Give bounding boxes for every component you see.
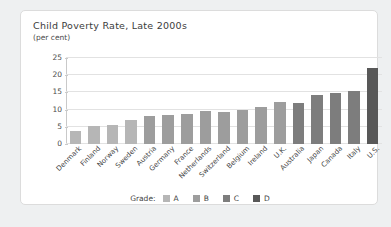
y-axis-tick-mark — [65, 110, 68, 111]
y-axis-tick-mark — [65, 92, 68, 93]
legend-item[interactable]: D — [253, 194, 270, 203]
y-axis-tick-label: 25 — [40, 54, 62, 62]
legend-item[interactable]: B — [193, 194, 209, 203]
y-axis-tick-label: 0 — [40, 140, 62, 148]
chart-subtitle: (per cent) — [33, 33, 70, 42]
legend-swatch — [253, 195, 260, 202]
legend-label: A — [174, 194, 179, 203]
chart-card: Child Poverty Rate, Late 2000s (per cent… — [20, 10, 378, 205]
y-axis-tick-mark — [65, 58, 68, 59]
legend-label: C — [234, 194, 239, 203]
legend-title: Grade: — [130, 194, 155, 203]
y-axis-labels: 0510152025 — [38, 58, 62, 144]
gridline — [66, 57, 382, 58]
y-axis-tick-mark — [65, 144, 68, 145]
y-axis-tick-mark — [65, 75, 68, 76]
y-axis-tick-label: 15 — [40, 88, 62, 96]
y-axis-tick-label: 10 — [40, 106, 62, 114]
chart-legend: Grade: ABCD — [21, 191, 379, 205]
y-axis-tick-mark — [65, 127, 68, 128]
x-axis-labels: DenmarkFinlandNorwaySwedenAustriaGermany… — [66, 146, 382, 191]
gridline — [66, 74, 382, 75]
legend-swatch — [163, 195, 170, 202]
y-axis-tick-label: 20 — [40, 71, 62, 79]
legend-swatch — [193, 195, 200, 202]
legend-items: ABCD — [163, 194, 270, 203]
y-axis-tick-label: 5 — [40, 123, 62, 131]
bar[interactable] — [70, 131, 82, 144]
legend-label: B — [204, 194, 209, 203]
legend-label: D — [264, 194, 270, 203]
legend-item[interactable]: C — [223, 194, 239, 203]
bar[interactable] — [367, 68, 379, 144]
legend-swatch — [223, 195, 230, 202]
legend-item[interactable]: A — [163, 194, 179, 203]
screenshot-root: Child Poverty Rate, Late 2000s (per cent… — [0, 0, 391, 227]
chart-title: Child Poverty Rate, Late 2000s — [33, 20, 187, 31]
